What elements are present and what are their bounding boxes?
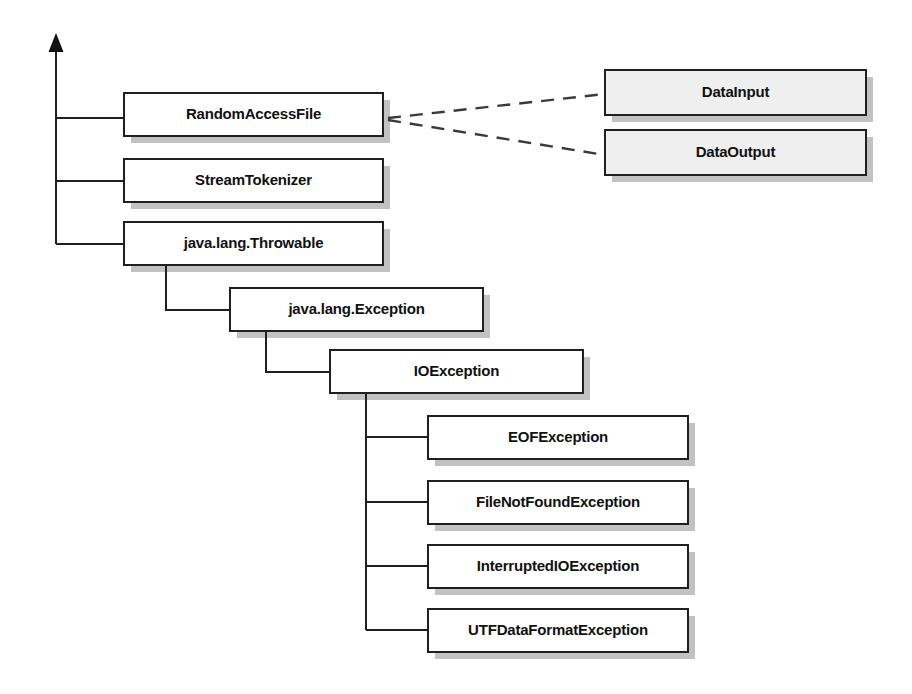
node-data-input[interactable]: DataInput: [605, 70, 866, 115]
node-label-java-lang-exception: java.lang.Exception: [287, 300, 424, 317]
node-eof-exception[interactable]: EOFException: [428, 416, 688, 459]
root-inheritance-arrow-icon: [49, 33, 64, 52]
node-label-eof-exception: EOFException: [508, 428, 608, 445]
edge-random-access-file-implements-data-output: [388, 120, 605, 155]
node-io-exception[interactable]: IOException: [330, 350, 583, 393]
node-layer: RandomAccessFileStreamTokenizerjava.lang…: [124, 70, 866, 652]
node-java-lang-exception[interactable]: java.lang.Exception: [230, 288, 483, 331]
node-utf-data-format-exception[interactable]: UTFDataFormatException: [428, 609, 688, 652]
node-random-access-file[interactable]: RandomAccessFile: [124, 93, 383, 136]
node-label-io-exception: IOException: [414, 362, 499, 379]
edge-random-access-file-implements-data-input: [388, 94, 605, 118]
node-label-data-output: DataOutput: [696, 143, 776, 160]
diagram-canvas: RandomAccessFileStreamTokenizerjava.lang…: [0, 0, 912, 694]
node-label-data-input: DataInput: [702, 83, 770, 100]
node-stream-tokenizer[interactable]: StreamTokenizer: [124, 159, 383, 202]
node-file-not-found-exception[interactable]: FileNotFoundException: [428, 481, 688, 524]
node-java-lang-throwable[interactable]: java.lang.Throwable: [124, 222, 383, 265]
node-label-utf-data-format-exception: UTFDataFormatException: [468, 621, 648, 638]
root-connector-layer: [49, 33, 64, 244]
class-hierarchy-diagram: RandomAccessFileStreamTokenizerjava.lang…: [0, 0, 912, 694]
node-label-stream-tokenizer: StreamTokenizer: [195, 171, 312, 188]
node-data-output[interactable]: DataOutput: [605, 130, 866, 175]
node-label-interrupted-io-exception: InterruptedIOException: [477, 557, 639, 574]
node-interrupted-io-exception[interactable]: InterruptedIOException: [428, 545, 688, 588]
node-label-random-access-file: RandomAccessFile: [186, 105, 321, 122]
node-label-file-not-found-exception: FileNotFoundException: [476, 493, 640, 510]
node-label-java-lang-throwable: java.lang.Throwable: [183, 234, 324, 251]
